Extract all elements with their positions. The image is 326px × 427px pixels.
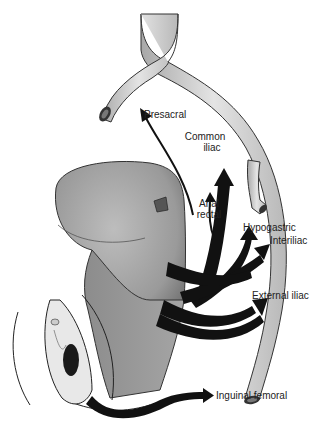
interiliac-arrowhead	[254, 244, 270, 260]
label-anal-rectal-line2: rectal	[192, 209, 226, 220]
common-iliac-arrowhead	[214, 168, 234, 186]
label-anal-rectal-line1: Anal	[192, 198, 226, 209]
label-common-iliac: Common iliac	[180, 131, 230, 153]
inguinal-femoral-arrowhead	[203, 388, 214, 403]
lymphatic-drainage-diagram: Presacral Common iliac Anal rectal Hypog…	[0, 0, 326, 427]
label-anal-rectal: Anal rectal	[192, 198, 226, 220]
label-external-iliac: External iliac	[252, 290, 309, 301]
label-inguinal-femoral: Inguinal femoral	[216, 390, 287, 401]
anal-opening	[45, 300, 92, 404]
label-common-iliac-line2: iliac	[180, 142, 230, 153]
label-common-iliac-line1: Common	[180, 131, 230, 142]
label-presacral: Presacral	[144, 109, 186, 120]
label-interiliac: Interiliac	[270, 235, 307, 246]
label-hypogastric: Hypogastric	[243, 222, 296, 233]
